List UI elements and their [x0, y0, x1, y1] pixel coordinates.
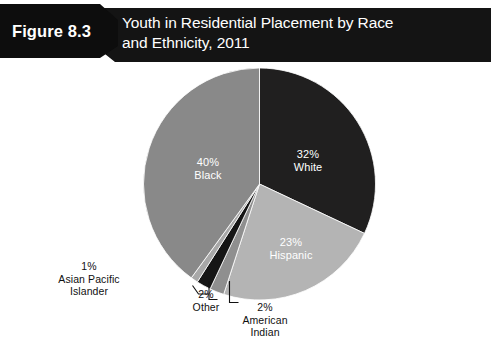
- chart-area: 32% White 23% Hispanic 40% Black 1% Asia…: [0, 66, 491, 353]
- callout-name-american-indian-line-1: American: [222, 314, 308, 327]
- callout-label-american-indian: 2% American Indian: [222, 301, 308, 339]
- slice-label-hispanic: 23% Hispanic: [259, 236, 323, 262]
- slice-value-white: 32%: [278, 148, 338, 161]
- pie-slice-group: [143, 68, 375, 300]
- callout-value-american-indian: 2%: [222, 301, 308, 314]
- slice-value-black: 40%: [178, 156, 238, 169]
- callout-label-asian-pacific-islander: 1% Asian Pacific Islander: [24, 260, 154, 298]
- pie-chart: 32% White 23% Hispanic 40% Black 1% Asia…: [0, 66, 491, 353]
- callout-name-asian-pacific-islander-line-2: Islander: [24, 285, 154, 298]
- callout-value-asian-pacific-islander: 1%: [24, 260, 154, 273]
- callout-name-american-indian-line-2: Indian: [222, 326, 308, 339]
- slice-name-white: White: [278, 161, 338, 174]
- callout-name-asian-pacific-islander-line-1: Asian Pacific: [24, 273, 154, 286]
- slice-label-black: 40% Black: [178, 156, 238, 182]
- figure-header-banner: Figure 8.3 Youth in Residential Placemen…: [0, 0, 491, 66]
- figure-title: Youth in Residential Placement by Race a…: [122, 13, 462, 52]
- slice-label-white: 32% White: [278, 148, 338, 174]
- slice-value-hispanic: 23%: [259, 236, 323, 249]
- slice-name-hispanic: Hispanic: [259, 249, 323, 262]
- callout-value-other: 2%: [174, 288, 238, 301]
- figure-title-line-1: Youth in Residential Placement by Race: [122, 14, 393, 31]
- figure-number-label: Figure 8.3: [12, 22, 104, 40]
- slice-name-black: Black: [178, 169, 238, 182]
- figure-title-line-2: and Ethnicity, 2011: [122, 33, 462, 53]
